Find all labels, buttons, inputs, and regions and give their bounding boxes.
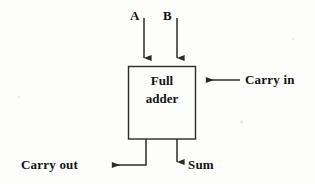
- input-label-b: B: [163, 9, 172, 22]
- output-line-carry-out: [112, 139, 146, 165]
- diagram-canvas: Full adder A B Carry in Carry out Sum: [0, 0, 315, 184]
- scan-artifact: [18, 96, 20, 98]
- output-label-sum: Sum: [188, 158, 214, 171]
- block-label-line-1: Full: [128, 72, 196, 90]
- scan-artifact: [240, 120, 243, 124]
- input-label-a: A: [130, 9, 140, 22]
- block-label-line-2: adder: [128, 90, 196, 108]
- output-label-carry-out: Carry out: [21, 158, 78, 171]
- input-label-carry-in: Carry in: [245, 73, 295, 86]
- block-label: Full adder: [128, 72, 196, 109]
- scan-artifact: [292, 38, 294, 40]
